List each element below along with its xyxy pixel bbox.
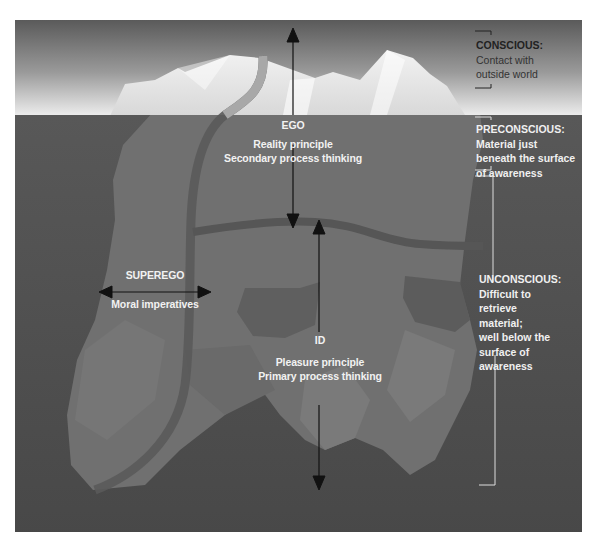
id-label: ID — [315, 333, 325, 347]
level-conscious-heading: CONSCIOUS: — [476, 38, 543, 53]
level-unconscious-line: awareness — [479, 359, 561, 374]
id-primary-process: Primary process thinking — [258, 369, 382, 383]
level-unconscious-heading: UNCONSCIOUS: — [479, 272, 561, 287]
superego-label: SUPEREGO — [126, 268, 185, 282]
level-conscious-line: Contact with — [476, 53, 543, 68]
level-preconscious-line: Material just — [476, 137, 575, 152]
level-preconscious-heading: PRECONSCIOUS: — [476, 122, 575, 137]
id-pleasure-principle: Pleasure principle — [276, 355, 365, 369]
ego-reality-principle: Reality principle — [253, 137, 332, 151]
level-conscious: CONSCIOUS: Contact with outside world — [476, 38, 543, 82]
level-unconscious-line: material; — [479, 316, 561, 331]
level-unconscious-line: well below the — [479, 330, 561, 345]
level-preconscious: PRECONSCIOUS: Material just beneath the … — [476, 122, 575, 180]
ego-label: EGO — [281, 118, 304, 132]
level-unconscious-line: surface of — [479, 345, 561, 360]
level-unconscious-line: retrieve — [479, 301, 561, 316]
ego-secondary-process: Secondary process thinking — [224, 151, 362, 165]
level-conscious-line: outside world — [476, 67, 543, 82]
level-preconscious-line: of awareness — [476, 166, 575, 181]
level-unconscious: UNCONSCIOUS: Difficult to retrieve mater… — [479, 272, 561, 374]
superego-moral-imperatives: Moral imperatives — [111, 297, 199, 311]
level-preconscious-line: beneath the surface — [476, 151, 575, 166]
iceberg-diagram: EGO Reality principle Secondary process … — [15, 20, 582, 532]
level-unconscious-line: Difficult to — [479, 287, 561, 302]
